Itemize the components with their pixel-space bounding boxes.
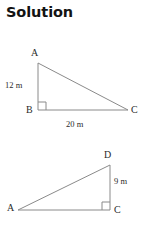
triangle-adc-vertex-label-d: D xyxy=(104,150,111,160)
triangle-adc-side-label-dc: 9 m xyxy=(114,177,127,186)
triangle-abc-side-label-ab: 12 m xyxy=(5,81,22,90)
triangle-adc-group xyxy=(18,165,110,210)
geometry-drawing xyxy=(0,0,144,234)
solution-figure-panel: Solution A B C 12 m 20 m A D C 9 m xyxy=(0,0,144,234)
triangle-abc-vertex-label-b: B xyxy=(26,105,33,115)
triangle-abc-side-label-bc: 20 m xyxy=(66,120,83,129)
triangle-abc-edge-ac xyxy=(38,63,128,110)
triangle-abc-right-angle-marker-b xyxy=(38,102,46,110)
triangle-abc-vertex-label-c: C xyxy=(131,105,138,115)
triangle-abc-group xyxy=(38,63,128,110)
triangle-adc-right-angle-marker-c xyxy=(102,202,110,210)
triangle-adc-edge-ad xyxy=(18,165,110,210)
triangle-adc-vertex-label-c: C xyxy=(114,205,121,215)
triangle-abc-vertex-label-a: A xyxy=(31,48,38,58)
triangle-adc-vertex-label-a: A xyxy=(7,203,14,213)
